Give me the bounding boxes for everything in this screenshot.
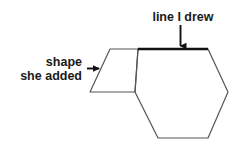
top-annotation-label: line I drew: [152, 10, 213, 24]
left-annotation-label-line1: shape: [46, 55, 82, 69]
diagram-canvas: line I drew shape she added: [0, 0, 240, 143]
left-annotation-label-line2: she added: [20, 69, 82, 83]
shape-diagram-svg: line I drew shape she added: [0, 0, 240, 143]
